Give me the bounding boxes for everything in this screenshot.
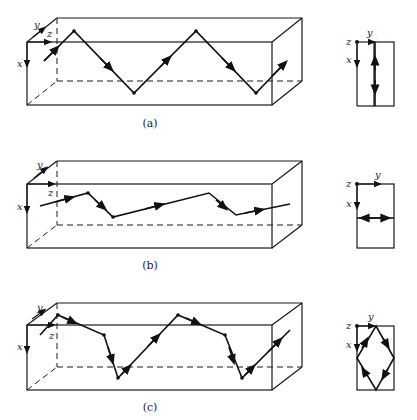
svg-text:z: z <box>345 178 352 189</box>
panel-a: y z x y z x <box>17 18 394 130</box>
box-c <box>27 303 302 390</box>
svg-text:y: y <box>36 302 43 313</box>
svg-text:z: z <box>47 187 54 198</box>
ray-b <box>40 191 290 219</box>
svg-text:z: z <box>48 330 55 341</box>
caption-c: (c) <box>143 401 158 414</box>
svg-text:x: x <box>17 341 23 352</box>
panel-b: y z x y z x (b) <box>17 159 394 272</box>
axes-c: y z x <box>17 302 55 352</box>
svg-text:x: x <box>346 198 352 209</box>
axes-a: y z x <box>17 19 53 69</box>
panel-c: y z x <box>17 302 394 414</box>
svg-text:x: x <box>17 201 23 212</box>
waveguide-ray-figure: y z x y z x <box>0 0 417 420</box>
svg-text:z: z <box>345 36 352 47</box>
cross-section-a: y z x <box>345 27 394 106</box>
cross-section-b: y z x <box>345 169 394 248</box>
svg-text:y: y <box>36 159 43 170</box>
axis-label-x: x <box>17 58 23 69</box>
svg-text:x: x <box>346 339 352 350</box>
svg-text:y: y <box>366 27 373 38</box>
svg-text:x: x <box>346 54 352 65</box>
svg-text:y: y <box>374 169 381 180</box>
cross-section-c: y z x <box>345 311 394 390</box>
caption-b: (b) <box>142 259 158 272</box>
caption-a: (a) <box>142 117 157 130</box>
svg-text:z: z <box>345 320 352 331</box>
axis-label-z: z <box>46 28 53 39</box>
svg-text:y: y <box>367 311 374 322</box>
ray-a <box>44 29 285 95</box>
axis-label-y: y <box>33 19 40 30</box>
ray-c <box>40 313 290 380</box>
